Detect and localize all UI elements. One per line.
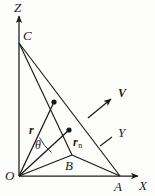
geometry-figure: Z X Y O A B C r rn V θ: [0, 0, 155, 196]
edge-b-to-a: [72, 155, 120, 176]
axis-label-y: Y: [118, 126, 125, 139]
vector-rn-line: [19, 130, 69, 176]
point-label-a: A: [114, 180, 122, 193]
angle-label-theta: θ: [35, 139, 41, 151]
vector-label-rn-base: r: [73, 135, 78, 149]
vector-label-r: r: [29, 124, 34, 136]
vector-rn-tip-dot: [66, 127, 71, 132]
angle-theta-arc: [40, 138, 52, 153]
vector-label-rn: rn: [73, 136, 82, 148]
edge-c-to-b: [19, 43, 72, 155]
vector-label-rn-subscript: n: [78, 141, 82, 150]
vector-v-line: [88, 99, 111, 118]
axis-label-x: X: [139, 179, 147, 192]
point-label-o: O: [5, 169, 14, 182]
axis-label-z: Z: [14, 1, 21, 14]
vector-label-v: V: [118, 87, 126, 99]
vector-r-tip-dot: [51, 99, 56, 104]
point-label-b: B: [65, 159, 73, 172]
y-label-leader-line: [100, 137, 112, 146]
point-label-c: C: [23, 29, 32, 42]
